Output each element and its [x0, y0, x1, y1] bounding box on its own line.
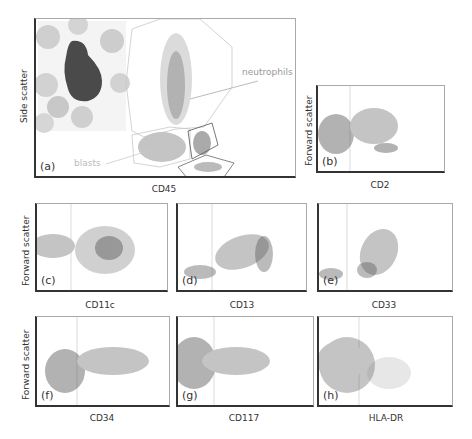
- panel-label-g: (g): [182, 389, 198, 402]
- x-axis-label-d: CD13: [212, 300, 272, 310]
- panel-e-cd33: (e): [317, 203, 453, 292]
- panel-h-hla-dr: (h): [317, 316, 453, 407]
- y-axis-label-b: Forward scatter: [304, 95, 314, 166]
- scatter-plot-e: [319, 204, 453, 292]
- x-axis-label-a: CD45: [134, 184, 194, 194]
- panel-c-cd11c: (c): [35, 203, 168, 292]
- scatter-plot-h: [319, 317, 453, 407]
- panel-label-d: (d): [182, 274, 198, 287]
- neutrophils-annotation: neutrophils: [242, 67, 293, 77]
- x-axis-label-b: CD2: [350, 180, 410, 190]
- scatter-plot-g: [178, 317, 314, 407]
- x-axis-label-e: CD33: [354, 300, 414, 310]
- panel-f-cd34: (f): [35, 316, 170, 407]
- y-axis-label-a: Side scatter: [19, 69, 29, 123]
- scatter-plot-a: [36, 19, 296, 178]
- panel-b-cd2: (b): [316, 85, 445, 173]
- x-axis-label-c: CD11c: [70, 300, 130, 310]
- x-axis-label-f: CD34: [72, 413, 132, 423]
- panel-label-c: (c): [41, 274, 56, 287]
- x-axis-label-h: HLA-DR: [356, 413, 416, 423]
- panel-g-cd117: (g): [176, 316, 314, 407]
- scatter-plot-f: [37, 317, 170, 407]
- panel-a-cd45-vs-ssc: neutrophils blasts (a): [34, 18, 296, 178]
- y-axis-label-c: Forward scatter: [21, 215, 31, 286]
- panel-d-cd13: (d): [176, 203, 307, 292]
- x-axis-label-g: CD117: [214, 413, 274, 423]
- panel-label-b: (b): [322, 155, 338, 168]
- panel-label-a: (a): [40, 160, 55, 173]
- scatter-plot-c: [37, 204, 168, 292]
- panel-label-e: (e): [323, 274, 338, 287]
- panel-label-f: (f): [41, 389, 53, 402]
- blast-micrograph-image: [36, 19, 130, 133]
- panel-label-h: (h): [323, 389, 339, 402]
- blasts-annotation: blasts: [74, 158, 101, 168]
- y-axis-label-f: Forward scatter: [21, 329, 31, 400]
